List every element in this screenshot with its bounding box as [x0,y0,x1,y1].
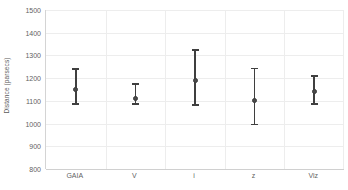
x-axis-tick-labels: GAIAVizViz [45,172,344,190]
y-axis-tick-label: 900 [13,143,41,150]
gridline-vertical [165,10,166,169]
x-axis-tick-label-i: i [193,172,195,179]
y-axis-tick-label: 1300 [13,52,41,59]
x-axis-tick-label-gaia: GAIA [66,172,83,179]
errorbar-cap-lower [132,103,139,105]
chart-container: Distance (parsecs) 800900100011001200130… [0,0,348,190]
y-axis-title: Distance (parsecs) [0,0,14,170]
errorbar-cap-upper [192,49,199,51]
errorbar-cap-upper [132,83,139,85]
y-axis-tick-labels: 800900100011001200130014001500 [14,0,44,190]
errorbar-cap-upper [251,68,258,70]
y-axis-tick-label: 1200 [13,75,41,82]
y-axis-tick-label: 1500 [13,7,41,14]
point-marker[interactable] [312,89,317,94]
gridline-vertical [343,10,344,169]
gridline-horizontal [46,169,344,170]
gridline-horizontal [46,124,344,125]
y-axis-tick-label: 1000 [13,120,41,127]
errorbar-cap-lower [192,104,199,106]
point-marker[interactable] [252,98,257,103]
point-marker[interactable] [133,96,138,101]
errorbar-cap-lower [72,103,79,105]
errorbar-line [254,68,256,125]
x-axis-tick-label-z: z [252,172,256,179]
errorbar-line [135,83,137,105]
x-axis-tick-label-v: V [132,172,137,179]
y-axis-tick-label: 1100 [13,97,41,104]
errorbar-cap-upper [72,68,79,70]
errorbar-cap-upper [311,75,318,77]
errorbar-cap-lower [251,124,258,126]
y-axis-title-label: Distance (parsecs) [4,57,11,113]
errorbar-cap-lower [311,103,318,105]
gridline-horizontal [46,33,344,34]
point-marker[interactable] [193,78,198,83]
y-axis-tick-label: 800 [13,166,41,173]
gridline-vertical [225,10,226,169]
gridline-vertical [284,10,285,169]
gridline-horizontal [46,10,344,11]
gridline-horizontal [46,146,344,147]
plot-area [45,10,344,169]
point-marker[interactable] [73,87,78,92]
x-axis-tick-label-viz: Viz [308,172,318,179]
gridline-vertical [106,10,107,169]
y-axis-tick-label: 1400 [13,29,41,36]
